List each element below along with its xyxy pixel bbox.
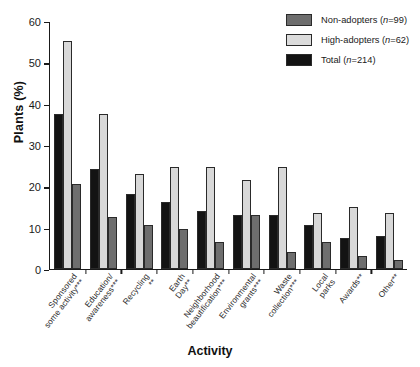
legend-swatch-non bbox=[286, 14, 312, 26]
y-axis-title: Plants (%) bbox=[12, 57, 26, 167]
legend-label: Non-adopters (n=99) bbox=[321, 15, 407, 25]
bar-total bbox=[269, 215, 278, 269]
y-tick-30 bbox=[44, 146, 49, 147]
legend-item: High-adopters (n=62) bbox=[286, 33, 409, 46]
bar-total bbox=[376, 236, 385, 269]
bar-total bbox=[54, 114, 63, 269]
bar-total bbox=[340, 238, 349, 269]
bar-high bbox=[313, 213, 322, 269]
bar-high bbox=[278, 167, 287, 268]
bar-non bbox=[394, 260, 403, 268]
bar-group bbox=[50, 22, 86, 269]
y-tick-label-50: 50 bbox=[29, 57, 41, 69]
bar-non bbox=[179, 229, 188, 268]
bar-chart: Plants (%) 0102030405060 Sponsored some … bbox=[0, 0, 420, 367]
y-tick-10 bbox=[44, 229, 49, 230]
bar-total bbox=[90, 169, 99, 268]
bar-total bbox=[161, 202, 170, 268]
bar-group bbox=[157, 22, 193, 269]
bar-high bbox=[170, 167, 179, 268]
y-tick-label-20: 20 bbox=[29, 181, 41, 193]
bar-non bbox=[287, 252, 296, 269]
bar-total bbox=[197, 211, 206, 269]
legend-swatch-total bbox=[286, 54, 312, 66]
bar-high bbox=[385, 213, 394, 269]
y-tick-label-40: 40 bbox=[29, 99, 41, 111]
bar-high bbox=[206, 167, 215, 268]
y-tick-label-30: 30 bbox=[29, 140, 41, 152]
bar-total bbox=[233, 215, 242, 269]
y-tick-label-60: 60 bbox=[29, 16, 41, 28]
bar-high bbox=[99, 114, 108, 269]
legend-item: Non-adopters (n=99) bbox=[286, 13, 409, 26]
bar-high bbox=[349, 207, 358, 269]
bar-non bbox=[215, 242, 224, 269]
x-axis-title: Activity bbox=[0, 344, 420, 358]
bar-group bbox=[229, 22, 265, 269]
x-axis-category-labels: Sponsored some activity***Education/ awa… bbox=[50, 272, 408, 342]
bar-high bbox=[242, 180, 251, 269]
y-tick-50 bbox=[44, 63, 49, 64]
bar-group bbox=[121, 22, 157, 269]
bar-high bbox=[63, 41, 72, 268]
y-tick-label-0: 0 bbox=[35, 264, 41, 276]
y-tick-60 bbox=[44, 22, 49, 23]
legend-swatch-high bbox=[286, 34, 312, 46]
bar-non bbox=[251, 215, 260, 269]
y-tick-40 bbox=[44, 105, 49, 106]
legend-label: High-adopters (n=62) bbox=[321, 35, 409, 45]
legend-item: Total (n=214) bbox=[286, 53, 409, 66]
bar-high bbox=[135, 174, 144, 269]
legend: Non-adopters (n=99)High-adopters (n=62)T… bbox=[286, 13, 409, 73]
bar-total bbox=[304, 225, 313, 268]
legend-label: Total (n=214) bbox=[321, 55, 376, 65]
bar-non bbox=[72, 184, 81, 269]
bar-group bbox=[193, 22, 229, 269]
y-tick-0 bbox=[44, 270, 49, 271]
y-tick-label-10: 10 bbox=[29, 223, 41, 235]
bar-non bbox=[322, 242, 331, 269]
bar-non bbox=[108, 217, 117, 269]
bar-total bbox=[126, 194, 135, 268]
bar-non bbox=[358, 256, 367, 268]
bar-non bbox=[144, 225, 153, 268]
bar-group bbox=[86, 22, 122, 269]
y-tick-20 bbox=[44, 187, 49, 188]
